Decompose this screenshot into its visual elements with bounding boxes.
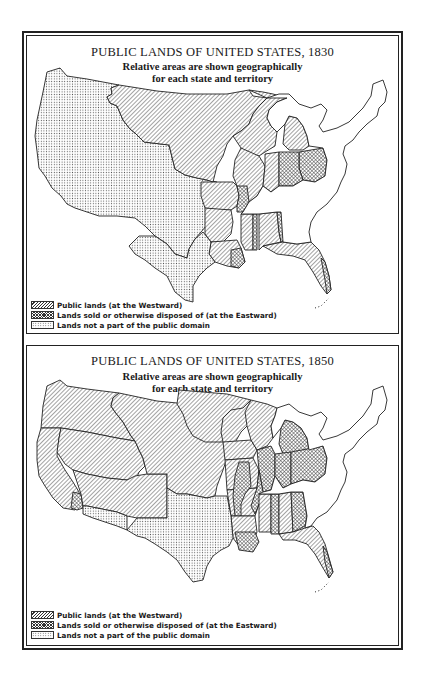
legend-label: Lands not a part of the public domain	[57, 631, 210, 640]
florida-keys	[315, 582, 329, 592]
region-louisiana-se	[231, 248, 245, 268]
legend-item-not-public: Lands not a part of the public domain	[31, 630, 277, 640]
hatch-swatch-icon	[31, 611, 54, 619]
legend-1850: Public lands (at the Westward) Lands sol…	[31, 610, 277, 640]
crosshatch-swatch-icon	[31, 311, 54, 319]
region-indiana	[263, 152, 279, 192]
region-mississippi-strip	[253, 214, 257, 250]
region-missouri	[201, 182, 239, 210]
region-louisiana-se	[235, 532, 259, 552]
legend-item-disposed: Lands sold or otherwise disposed of (at …	[31, 310, 277, 320]
crosshatch-swatch-icon	[31, 621, 54, 629]
hatch-swatch-icon	[31, 301, 54, 309]
us-map-1830	[27, 36, 400, 335]
legend-label: Public lands (at the Westward)	[57, 611, 182, 620]
dots-swatch-icon	[31, 321, 54, 329]
legend-item-public: Public lands (at the Westward)	[31, 300, 277, 310]
region-mississippi	[259, 494, 271, 532]
legend-label: Lands sold or otherwise disposed of (at …	[57, 621, 277, 630]
legend-item-public: Public lands (at the Westward)	[31, 610, 277, 620]
region-indiana-east	[279, 152, 303, 186]
legend-label: Lands sold or otherwise disposed of (at …	[57, 311, 277, 320]
region-florida	[263, 242, 331, 294]
region-mississippi	[241, 214, 253, 250]
us-map-1850	[27, 346, 400, 647]
region-iowa	[223, 440, 257, 460]
florida-keys	[315, 298, 329, 308]
dots-swatch-icon	[31, 631, 54, 639]
legend-label: Public lands (at the Westward)	[57, 301, 182, 310]
legend-item-disposed: Lands sold or otherwise disposed of (at …	[31, 620, 277, 630]
region-mississippi-strip	[271, 494, 279, 534]
map-panel-1850: PUBLIC LANDS OF UNITED STATES, 1850 Rela…	[26, 345, 399, 646]
region-arkansas	[205, 208, 233, 242]
legend-1830: Public lands (at the Westward) Lands sol…	[31, 300, 277, 330]
legend-label: Lands not a part of the public domain	[57, 321, 210, 330]
map-panel-1830: PUBLIC LANDS OF UNITED STATES, 1830 Rela…	[26, 35, 399, 334]
legend-item-not-public: Lands not a part of the public domain	[31, 320, 277, 330]
